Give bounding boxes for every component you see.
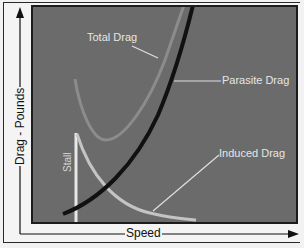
y-axis-arrow-icon bbox=[16, 7, 24, 18]
y-axis-label: Drag - Pounds bbox=[13, 87, 27, 166]
total-drag-curve bbox=[75, 5, 184, 140]
total-drag-leader bbox=[132, 46, 158, 58]
induced-drag-label: Induced Drag bbox=[219, 147, 285, 159]
stall-label: Stall bbox=[62, 153, 73, 172]
induced-drag-leader bbox=[153, 155, 219, 211]
induced-drag-curve bbox=[77, 134, 196, 220]
x-axis-label: Speed bbox=[125, 226, 162, 240]
x-axis-arrow-icon bbox=[288, 230, 299, 238]
chart-curves bbox=[0, 0, 304, 248]
total-drag-label: Total Drag bbox=[87, 31, 137, 43]
parasite-drag-label: Parasite Drag bbox=[222, 74, 289, 86]
